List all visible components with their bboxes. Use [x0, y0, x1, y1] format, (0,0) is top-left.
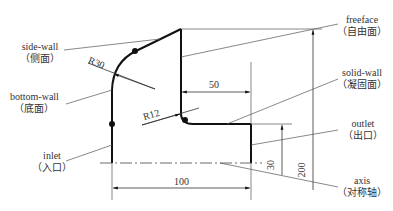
outlet-zh: （出口） [343, 130, 383, 142]
solid-wall-label: solid-wall （凝固面） [337, 67, 387, 91]
side-wall-junction-dot [132, 48, 138, 54]
dimension-lines [88, 30, 313, 190]
outlet-en: outlet [352, 118, 375, 129]
axis-label: axis （对称轴） [337, 175, 387, 199]
inlet-zh: （入口） [32, 162, 72, 174]
geometry-diagram [0, 0, 393, 211]
freeface-label: freeface （自由面） [337, 14, 387, 38]
inlet-junction-dot [109, 121, 115, 127]
inlet-en: inlet [43, 150, 61, 161]
freeface-zh: （自由面） [337, 26, 387, 38]
freeface-en: freeface [346, 14, 378, 25]
solid-wall-en: solid-wall [342, 67, 382, 78]
side-wall-zh: （侧面） [20, 53, 60, 65]
bottom-wall-en: bottom-wall [10, 91, 59, 102]
bottom-wall-label: bottom-wall （底面） [10, 91, 59, 115]
outlet-label: outlet （出口） [343, 118, 383, 142]
solid-wall-junction-dot [182, 117, 188, 123]
dim-50: 50 [209, 80, 219, 90]
axis-en: axis [354, 175, 370, 186]
axis-zh: （对称轴） [337, 187, 387, 199]
dim-30: 30 [266, 160, 276, 170]
solid-wall-zh: （凝固面） [337, 79, 387, 91]
dim-200: 200 [297, 163, 307, 178]
side-wall-label: side-wall （侧面） [20, 41, 60, 65]
bottom-wall-zh: （底面） [10, 103, 59, 115]
side-wall-en: side-wall [22, 41, 59, 52]
dim-100: 100 [174, 177, 189, 187]
inlet-label: inlet （入口） [32, 150, 72, 174]
side-wall-edge [112, 29, 181, 90]
